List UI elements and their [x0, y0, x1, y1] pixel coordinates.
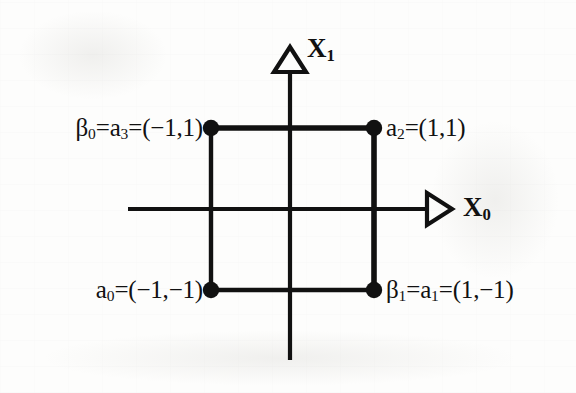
point-label-top-left-eq1: =a [96, 114, 121, 141]
point-marker-bottom-left[interactable] [203, 282, 219, 298]
x-axis-label: X0 [463, 194, 491, 223]
point-label-bottom-left-a-sub: 0 [107, 287, 115, 304]
point-label-top-right-a: a [386, 114, 397, 141]
point-label-bottom-right-beta: β [386, 276, 399, 303]
point-label-bottom-right: β1=a1=(1,−1) [386, 277, 514, 304]
point-label-bottom-right-eq2: =(1,−1) [439, 276, 514, 303]
x-axis-arrowhead-icon [427, 193, 452, 225]
point-label-bottom-left-a: a [96, 276, 107, 303]
y-axis-arrowhead-icon [274, 47, 306, 72]
y-axis [274, 47, 306, 360]
x-axis-label-main: X [463, 192, 483, 222]
point-label-bottom-right-eq1: =a [406, 276, 431, 303]
y-axis-label-sub: 1 [327, 46, 335, 65]
point-label-top-left: β0=a3=(−1,1) [75, 115, 203, 142]
figure-canvas: β0=a3=(−1,1) a2=(1,1) a0=(−1,−1) β1=a1=(… [0, 0, 576, 393]
point-label-top-right: a2=(1,1) [386, 115, 465, 142]
point-marker-bottom-right[interactable] [366, 282, 382, 298]
point-label-bottom-left: a0=(−1,−1) [96, 277, 203, 304]
point-marker-top-right[interactable] [366, 120, 382, 136]
point-marker-top-left[interactable] [203, 120, 219, 136]
point-label-bottom-right-a-sub: 1 [431, 287, 439, 304]
point-label-top-left-beta: β [75, 114, 88, 141]
y-axis-label: X1 [307, 35, 335, 64]
point-label-top-right-eq: =(1,1) [405, 114, 466, 141]
x-axis-label-sub: 0 [483, 205, 491, 224]
point-label-top-right-a-sub: 2 [397, 125, 405, 142]
point-label-bottom-left-eq: =(−1,−1) [114, 276, 203, 303]
y-axis-label-main: X [307, 33, 327, 63]
point-label-top-left-eq2: =(−1,1) [128, 114, 203, 141]
point-label-top-left-a-sub: 3 [121, 125, 129, 142]
